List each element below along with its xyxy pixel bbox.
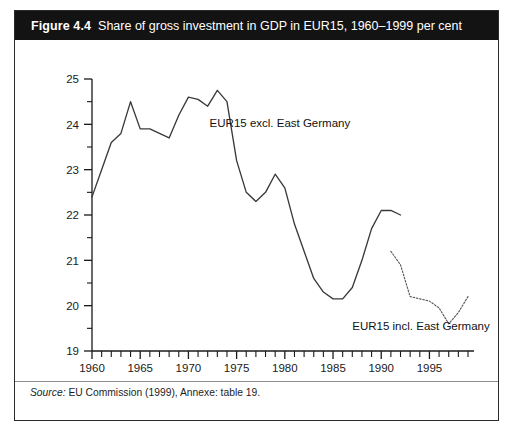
series-annotation-1: EUR15 excl. East Germany: [210, 117, 351, 129]
chart-annotations: EUR15 excl. East GermanyEUR15 incl. East…: [210, 117, 490, 332]
line-chart-svg: 19202122232425 1960196519701975198019851…: [15, 40, 498, 381]
figure-container: Figure 4.4 Share of gross investment in …: [0, 0, 513, 443]
chart-series-line-2: [391, 251, 468, 324]
figure-title: Share of gross investment in GDP in EUR1…: [98, 19, 462, 33]
figure-title-banner: Figure 4.4 Share of gross investment in …: [15, 11, 498, 40]
x-axis-tick-label: 1975: [224, 362, 250, 374]
y-axis-tick-label: 24: [66, 119, 79, 131]
chart-plot-area: 19202122232425 1960196519701975198019851…: [15, 40, 498, 381]
x-axis-tick-label: 1965: [127, 362, 153, 374]
x-axis-tick-label: 1980: [272, 362, 298, 374]
y-axis-tick-label: 20: [66, 300, 79, 312]
source-label: Source:: [30, 387, 66, 398]
y-axis-tick-label: 25: [66, 73, 79, 85]
x-axis-tick-label: 1995: [417, 362, 443, 374]
x-axis-tick-label: 1960: [79, 362, 105, 374]
series-annotation-2: EUR15 incl. East Germany: [352, 320, 490, 332]
y-axis: 19202122232425: [66, 73, 92, 357]
y-axis-tick-label: 19: [66, 345, 79, 357]
x-axis-tick-label: 1970: [176, 362, 202, 374]
source-note: Source: EU Commission (1999), Annexe: ta…: [30, 387, 260, 398]
figure-number: Figure 4.4: [31, 19, 91, 33]
source-text: EU Commission (1999), Annexe: table 19.: [68, 387, 260, 398]
y-axis-tick-label: 22: [66, 209, 79, 221]
x-axis-tick-label: 1990: [368, 362, 394, 374]
x-axis: 19601965197019751980198519901995: [79, 351, 474, 374]
y-axis-tick-label: 21: [66, 255, 79, 267]
source-divider: [15, 381, 498, 382]
y-axis-tick-label: 23: [66, 164, 79, 176]
x-axis-tick-label: 1985: [320, 362, 346, 374]
